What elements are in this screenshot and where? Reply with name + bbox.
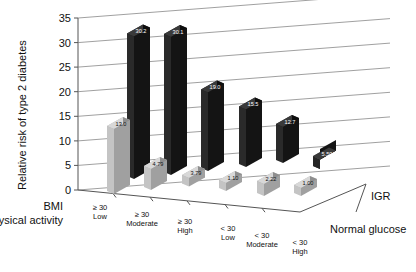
bar-value-label: 13.0 (116, 121, 127, 127)
bar-chart-3d: Relative risk of type 2 diabetes 35 30 2… (0, 0, 416, 272)
y-tick-label: 0 (65, 184, 71, 196)
y-tick-label: 20 (59, 86, 71, 98)
bar-value-label: 3.79 (191, 170, 202, 176)
y-tick-5: 5 (65, 159, 78, 171)
category-label-1: ≥ 30 Low (93, 203, 108, 221)
y-tick-10: 10 (59, 135, 78, 147)
category-bmi: ≥ 30 (178, 217, 193, 226)
category-activity: Moderate (126, 219, 158, 228)
bar-value-label: 5.50 (322, 151, 333, 157)
bar-value-label: 12.7 (285, 119, 296, 125)
y-tick-label: 5 (65, 159, 71, 171)
category-activity: High (292, 247, 307, 256)
bar-value-label: 30.2 (136, 28, 147, 34)
y-tick-0: 0 (65, 184, 78, 196)
category-bmi: ≥ 30 (93, 203, 108, 212)
y-tick-label: 35 (59, 12, 71, 24)
bar-normal-5: 2.22 (257, 172, 280, 196)
y-axis: 35 30 25 20 15 10 (59, 12, 78, 196)
bar-normal-3: 3.79 (182, 166, 205, 187)
bar-value-label: 30.1 (173, 29, 184, 35)
series-label-igr: IGR (371, 190, 391, 202)
bar-normal-4: 1.10 (219, 171, 242, 191)
category-activity: Low (93, 212, 107, 221)
category-bmi: < 30 (221, 224, 236, 233)
category-bmi: ≥ 30 (135, 210, 150, 219)
category-label-3: ≥ 30 High (177, 217, 192, 235)
bar-igr-3: 19.0 (201, 81, 224, 172)
y-tick-label: 10 (59, 135, 71, 147)
y-tick-label: 25 (59, 61, 71, 73)
bar-igr-5: 12.7 (276, 115, 299, 163)
bar-igr-1: 30.2 (127, 25, 150, 180)
y-tick-25: 25 (59, 61, 78, 73)
category-label-2: ≥ 30 Moderate (126, 210, 158, 228)
category-label-4: < 30 Low (221, 224, 236, 242)
category-bmi: < 30 (293, 238, 308, 247)
series-legend: IGR Normal glucose (330, 184, 406, 235)
category-label-5: < 30 Moderate (246, 231, 278, 249)
y-tick-20: 20 (59, 86, 78, 98)
bar-value-label: 1.10 (228, 175, 239, 181)
bar-value-label: 1.00 (303, 180, 314, 186)
bar-igr-4: 15.5 (239, 98, 262, 168)
y-tick-label: 30 (59, 37, 71, 49)
category-activity: High (177, 226, 192, 235)
y-tick-35: 35 (59, 12, 78, 24)
chart-container: Relative risk of type 2 diabetes 35 30 2… (0, 0, 416, 272)
bmi-axis-label: BMI (43, 200, 63, 212)
floor-axis (78, 190, 352, 212)
category-label-6: < 30 High (292, 238, 307, 256)
bar-value-label: 2.22 (266, 176, 277, 182)
bar-value-label: 15.5 (248, 101, 259, 107)
bar-value-label: 4.79 (153, 161, 164, 167)
bar-normal-6: 1.00 (294, 176, 317, 196)
category-activity: Moderate (246, 240, 278, 249)
category-bmi: < 30 (255, 231, 270, 240)
physical-activity-axis-label: Physical activity (0, 214, 63, 226)
bar-value-label: 19.0 (210, 84, 221, 90)
bar-igr-2: 30.1 (164, 25, 187, 175)
category-activity: Low (221, 233, 235, 242)
bar-igr-6: 5.50 (313, 140, 336, 169)
series-label-normal-glucose: Normal glucose (330, 223, 406, 235)
y-tick-15: 15 (59, 110, 78, 122)
y-tick-label: 15 (59, 110, 71, 122)
y-axis-title: Relative risk of type 2 diabetes (16, 40, 28, 190)
bar-normal-1: 13.0 (107, 117, 130, 194)
y-tick-30: 30 (59, 37, 78, 49)
